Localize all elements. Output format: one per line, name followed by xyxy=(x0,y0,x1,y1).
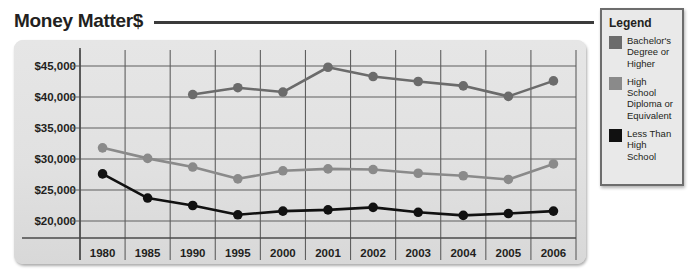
legend-items: Bachelor's Degree or HigherHigh School D… xyxy=(609,35,676,162)
series-data-point xyxy=(549,206,559,216)
legend-color-swatch xyxy=(609,36,622,49)
series-line xyxy=(193,67,554,96)
series-data-point xyxy=(458,81,468,91)
legend-item[interactable]: Less Than High School xyxy=(609,128,676,162)
plot-panel: $45,000$40,000$35,000$30,000$25,000$20,0… xyxy=(14,40,586,264)
page-title: Money Matter$ xyxy=(14,10,143,32)
x-axis-tick-label: 2006 xyxy=(541,247,567,259)
series-data-point xyxy=(323,205,333,215)
series-data-point xyxy=(278,87,288,97)
series-data-point xyxy=(504,209,514,219)
series-data-point xyxy=(188,201,198,211)
legend-color-swatch xyxy=(609,129,622,142)
series-data-point xyxy=(458,171,468,181)
title-row: Money Matter$ xyxy=(14,8,594,34)
plot-svg xyxy=(14,40,586,264)
series-data-point xyxy=(233,174,243,184)
series-data-point xyxy=(323,62,333,72)
x-axis-tick-label: 2004 xyxy=(450,247,476,259)
legend-item[interactable]: High School Diploma or Equivalent xyxy=(609,76,676,121)
series-data-point xyxy=(188,162,198,172)
legend-item-label: Less Than High School xyxy=(627,128,676,162)
series-data-point xyxy=(549,159,559,169)
x-axis-tick-label: 1985 xyxy=(135,247,161,259)
chart-page: Money Matter$ $45,000$40,000$35,000$30,0… xyxy=(0,0,697,274)
legend-item-label: Bachelor's Degree or Higher xyxy=(627,35,676,69)
series-data-point xyxy=(504,175,514,185)
x-axis-tick-label: 2000 xyxy=(270,247,296,259)
series-data-point xyxy=(458,211,468,221)
series-data-point xyxy=(368,203,378,213)
series-data-point xyxy=(233,83,243,93)
series-data-point xyxy=(188,90,198,100)
series-data-point xyxy=(368,72,378,82)
series-data-point xyxy=(278,166,288,176)
series-data-point xyxy=(143,193,153,203)
x-axis-tick-label: 2003 xyxy=(405,247,431,259)
series-data-point xyxy=(143,154,153,164)
x-axis-tick-label: 2001 xyxy=(315,247,341,259)
series-data-point xyxy=(504,92,514,102)
legend: Legend Bachelor's Degree or HigherHigh S… xyxy=(600,8,684,186)
x-axis-labels: 1980198519901995200020012002200320042005… xyxy=(14,238,586,264)
x-axis-tick-label: 2005 xyxy=(496,247,522,259)
x-axis-tick-label: 1995 xyxy=(225,247,251,259)
series-data-point xyxy=(413,168,423,178)
series-data-point xyxy=(98,169,108,179)
series-data-point xyxy=(413,208,423,218)
series-data-point xyxy=(323,164,333,174)
legend-color-swatch xyxy=(609,77,622,90)
legend-heading: Legend xyxy=(609,16,676,30)
series-data-point xyxy=(368,165,378,175)
series-data-point xyxy=(278,206,288,216)
series-data-point xyxy=(549,76,559,86)
x-axis-tick-label: 1990 xyxy=(180,247,206,259)
legend-item[interactable]: Bachelor's Degree or Higher xyxy=(609,35,676,69)
series-data-point xyxy=(233,210,243,220)
x-axis-tick-label: 2002 xyxy=(360,247,386,259)
title-divider xyxy=(154,21,594,24)
series-data-point xyxy=(98,143,108,153)
series-data-point xyxy=(413,77,423,87)
legend-item-label: High School Diploma or Equivalent xyxy=(627,76,676,121)
x-axis-tick-label: 1980 xyxy=(90,247,116,259)
